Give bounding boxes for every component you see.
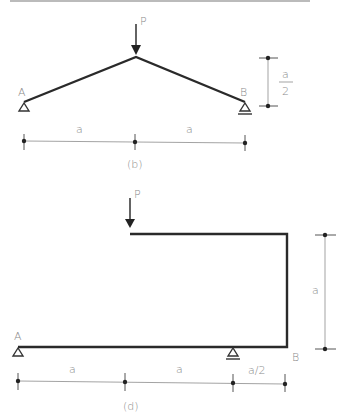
dim-label: a xyxy=(312,284,319,297)
dim-label: a xyxy=(76,123,83,136)
support-b-label: B xyxy=(292,351,299,364)
roller-support-icon xyxy=(238,103,252,114)
dim-fraction-numerator: a xyxy=(282,68,289,81)
support-a-label: A xyxy=(14,330,22,343)
load-label: P xyxy=(134,188,141,201)
vertical-dimension xyxy=(259,56,293,108)
dim-fraction-denominator: 2 xyxy=(282,85,289,98)
dim-label: a xyxy=(186,123,193,136)
dim-label: a/2 xyxy=(248,364,265,377)
figure-d: P A B a a a/2 xyxy=(13,188,336,413)
inclined-beam xyxy=(24,57,245,102)
load-label: P xyxy=(140,15,147,28)
load-arrow-icon xyxy=(131,24,141,55)
structural-diagrams: P A B a a xyxy=(0,0,357,420)
dim-label: a xyxy=(176,363,183,376)
figure-b: P A B a a xyxy=(18,15,293,171)
roller-support-icon xyxy=(226,348,240,359)
figure-caption: (d) xyxy=(123,400,139,413)
cropped-top-text xyxy=(10,0,310,2)
frame xyxy=(18,234,287,347)
horizontal-dimension xyxy=(16,373,287,392)
pin-support-icon xyxy=(19,103,29,111)
pin-support-icon xyxy=(13,348,23,356)
support-a-label: A xyxy=(18,86,26,99)
figure-caption: (b) xyxy=(127,158,143,171)
load-arrow-icon xyxy=(125,198,135,228)
dim-label: a xyxy=(69,363,76,376)
horizontal-dimension xyxy=(22,134,247,151)
support-b-label: B xyxy=(240,86,247,99)
